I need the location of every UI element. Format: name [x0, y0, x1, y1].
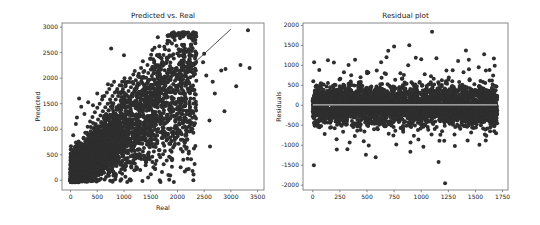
data-point — [175, 44, 179, 48]
data-point — [95, 127, 99, 131]
data-point — [397, 120, 401, 124]
data-point — [150, 160, 154, 164]
data-point — [416, 137, 420, 141]
data-point — [379, 60, 383, 64]
data-point — [412, 134, 416, 138]
data-point — [172, 180, 176, 184]
data-point — [484, 139, 488, 143]
data-point — [463, 97, 467, 101]
data-point — [207, 119, 211, 123]
data-point — [188, 123, 192, 127]
data-point — [315, 85, 319, 89]
data-point — [176, 72, 180, 76]
y-tick-label: 2000 — [284, 21, 299, 28]
data-point — [313, 91, 317, 95]
data-point — [414, 56, 418, 60]
data-point — [129, 178, 133, 182]
data-point — [146, 71, 150, 75]
data-point — [347, 63, 351, 67]
data-point — [388, 115, 392, 119]
data-point — [159, 78, 163, 82]
data-point — [393, 78, 397, 82]
data-point — [483, 99, 487, 103]
data-point — [107, 87, 111, 91]
data-point — [128, 76, 132, 80]
data-point — [349, 79, 353, 83]
data-point — [246, 28, 250, 32]
data-point — [472, 126, 476, 130]
data-point — [168, 64, 172, 68]
data-point — [353, 122, 357, 126]
data-point — [480, 117, 484, 121]
data-point — [179, 76, 183, 80]
data-point — [337, 99, 341, 103]
data-point — [481, 80, 485, 84]
chart-title: Predicted vs. Real — [131, 11, 195, 20]
data-point — [99, 137, 103, 141]
data-point — [464, 123, 468, 127]
data-point — [429, 82, 433, 86]
data-point — [489, 100, 493, 104]
data-point — [124, 81, 128, 85]
data-point — [164, 96, 168, 100]
data-point — [456, 59, 460, 63]
data-point — [163, 149, 167, 153]
data-point — [455, 117, 459, 121]
data-point — [429, 93, 433, 97]
data-point — [174, 84, 178, 88]
data-point — [384, 116, 388, 120]
data-point — [358, 125, 362, 129]
data-point — [193, 57, 197, 61]
data-point — [123, 165, 127, 169]
data-point — [483, 133, 487, 137]
data-point — [107, 174, 111, 178]
data-point — [79, 105, 83, 109]
data-point — [114, 173, 118, 177]
y-tick-label: 1500 — [284, 41, 299, 48]
data-point — [152, 150, 156, 154]
data-point — [73, 144, 77, 148]
data-point — [409, 109, 413, 113]
data-point — [144, 159, 148, 163]
data-point — [149, 53, 153, 57]
data-point — [169, 85, 173, 89]
data-point — [386, 49, 390, 53]
data-point — [140, 113, 144, 117]
data-point — [463, 93, 467, 97]
data-point — [204, 74, 208, 78]
data-point — [475, 107, 479, 111]
data-point — [416, 116, 420, 120]
data-point — [389, 124, 393, 128]
data-point — [157, 95, 161, 99]
x-tick-label: 500 — [361, 193, 373, 200]
y-axis-label: Residuals — [275, 91, 283, 122]
data-point — [433, 106, 437, 110]
data-point — [387, 84, 391, 88]
data-point — [402, 121, 406, 125]
x-tick-label: 250 — [334, 193, 346, 200]
data-point — [137, 72, 141, 76]
data-point — [166, 114, 170, 118]
data-point — [156, 105, 160, 109]
data-point — [89, 169, 93, 173]
data-point — [96, 118, 100, 122]
data-point — [166, 74, 170, 78]
data-point — [392, 115, 396, 119]
data-point — [475, 122, 479, 126]
data-point — [121, 135, 125, 139]
data-point — [96, 132, 100, 136]
data-point — [396, 111, 400, 115]
data-point — [179, 165, 183, 169]
data-point — [134, 91, 138, 95]
data-point — [327, 93, 331, 97]
data-point — [127, 89, 131, 93]
data-point — [358, 82, 362, 86]
data-point — [126, 149, 130, 153]
data-point — [457, 110, 461, 114]
data-point — [114, 105, 118, 109]
data-point — [183, 134, 187, 138]
data-point — [468, 114, 472, 118]
data-point — [384, 98, 388, 102]
data-point — [77, 97, 81, 101]
data-point — [135, 99, 139, 103]
